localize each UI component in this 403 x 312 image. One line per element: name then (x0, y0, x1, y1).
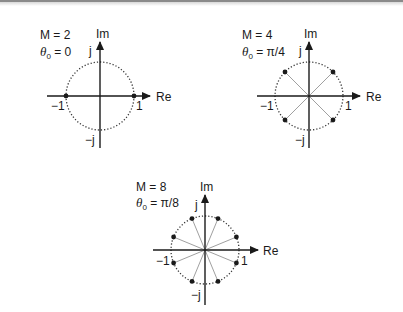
theta-label: θ0 = π/8 (136, 195, 179, 212)
symbol-point (331, 70, 336, 75)
symbol-point (171, 261, 176, 266)
im-label: Im (96, 27, 109, 41)
symbol-point (64, 94, 69, 99)
symbol-point (216, 216, 221, 221)
neg-one-label: −1 (156, 254, 170, 268)
panel-m8: M = 8 θ0 = π/8 Im Re j −j −1 1 (136, 180, 279, 305)
symbol-point (283, 118, 288, 123)
symbol-point (234, 261, 239, 266)
m-label: M = 8 (136, 180, 167, 194)
m-label: M = 2 (40, 28, 71, 42)
symbol-point (132, 94, 137, 99)
one-label: 1 (345, 99, 352, 113)
symbol-point (216, 279, 221, 284)
symbol-point (234, 235, 239, 240)
symbol-point (190, 216, 195, 221)
re-label: Re (156, 90, 172, 104)
symbol-point (283, 70, 288, 75)
symbol-point (171, 235, 176, 240)
re-label: Re (263, 244, 279, 258)
neg-j-label: −j (85, 133, 95, 147)
symbol-point (190, 279, 195, 284)
one-label: 1 (136, 99, 143, 113)
theta-label: θ0 = π/4 (242, 44, 285, 61)
neg-j-label: −j (295, 133, 305, 147)
neg-one-label: −1 (260, 99, 274, 113)
constellation-figure: M = 2 θ0 = 0 Im Re j −j −1 1 M = 4 θ0 = … (0, 0, 403, 312)
neg-one-label: −1 (51, 99, 65, 113)
j-label: j (88, 44, 92, 58)
panel-m2: M = 2 θ0 = 0 Im Re j −j −1 1 (40, 27, 172, 148)
neg-j-label: −j (191, 288, 201, 302)
m-label: M = 4 (242, 28, 273, 42)
symbol-point (331, 118, 336, 123)
im-label: Im (304, 27, 317, 41)
re-label: Re (366, 90, 382, 104)
panel-m4: M = 4 θ0 = π/4 Im Re j −j −1 1 (242, 27, 382, 148)
j-label: j (298, 44, 302, 58)
im-label: Im (200, 180, 213, 194)
j-label: j (194, 198, 198, 212)
one-label: 1 (241, 254, 248, 268)
theta-label: θ0 = 0 (40, 44, 72, 61)
